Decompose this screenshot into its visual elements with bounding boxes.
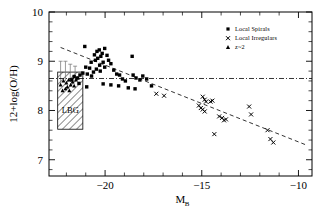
data-point-local-spiral — [105, 54, 108, 57]
data-point-local-spiral — [101, 82, 104, 85]
data-point-local-spiral — [77, 82, 80, 85]
data-point-local-spiral — [101, 61, 104, 64]
legend-label: z~2 — [235, 43, 245, 50]
data-point-local-spiral — [86, 72, 89, 75]
data-point-local-spiral — [88, 66, 91, 69]
data-point-local-spiral — [83, 45, 86, 48]
data-point-local-spiral — [138, 78, 141, 81]
legend-label: Local Irregulars — [235, 34, 278, 41]
y-tick-label: 9 — [38, 55, 44, 67]
data-point-local-spiral — [89, 61, 92, 64]
data-point-local-spiral — [99, 69, 102, 72]
data-point-local-spiral — [103, 65, 106, 68]
data-point-local-spiral — [109, 83, 112, 86]
data-point-local-spiral — [93, 53, 96, 56]
data-point-local-spiral — [133, 87, 136, 90]
x-tick-label: −10 — [290, 179, 308, 191]
y-tick-label: 10 — [32, 6, 44, 18]
data-point-local-spiral — [99, 55, 102, 58]
data-point-local-spiral — [130, 55, 133, 58]
data-point-local-spiral — [100, 52, 103, 55]
lbg-region-label: LBG — [62, 105, 79, 115]
scatter-plot-svg: −20−15−10 78910 LBG M B 12+log(O/H) Loca… — [0, 0, 331, 216]
data-point-local-spiral — [141, 74, 144, 77]
data-point-local-spiral — [81, 71, 84, 74]
data-point-local-spiral — [103, 47, 106, 50]
data-point-local-spiral — [95, 67, 98, 70]
data-point-local-spiral — [150, 84, 153, 87]
figure-container: −20−15−10 78910 LBG M B 12+log(O/H) Loca… — [0, 0, 331, 216]
data-point-local-spiral — [85, 85, 88, 88]
data-point-local-spiral — [117, 84, 120, 87]
y-axis-label: 12+log(O/H) — [7, 65, 20, 123]
data-point-local-spiral — [124, 79, 127, 82]
data-point-local-spiral — [134, 76, 137, 79]
data-point-local-spiral — [115, 72, 118, 75]
data-point-local-spiral — [112, 68, 115, 71]
data-point-local-spiral — [145, 77, 148, 80]
data-point-local-spiral — [118, 73, 121, 76]
data-point-local-spiral — [84, 65, 87, 68]
data-point-local-spiral — [121, 77, 124, 80]
data-point-local-spiral — [98, 63, 101, 66]
y-tick-label: 7 — [38, 154, 44, 166]
data-point-local-spiral — [107, 59, 110, 62]
y-tick-label: 8 — [38, 104, 44, 116]
plot-background — [0, 0, 331, 216]
data-point-local-spiral — [92, 70, 95, 73]
data-point-local-spiral — [109, 62, 112, 65]
data-point-local-spiral — [72, 75, 75, 78]
data-point-local-spiral — [78, 73, 81, 76]
data-point-local-spiral — [131, 73, 134, 76]
x-axis-label-subscript: B — [185, 200, 190, 208]
data-point-local-spiral — [98, 48, 101, 51]
data-point-local-spiral — [96, 57, 99, 60]
data-point-local-spiral — [90, 74, 93, 77]
x-tick-label: −20 — [96, 179, 114, 191]
legend-marker-square — [226, 27, 229, 30]
legend-label: Local Spirals — [235, 25, 270, 32]
x-tick-label: −15 — [193, 179, 211, 191]
data-point-local-spiral — [127, 86, 130, 89]
